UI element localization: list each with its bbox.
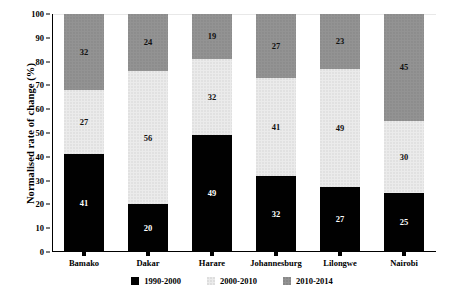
y-tick-label: 0 xyxy=(40,247,44,257)
bar-stack[interactable]: 193249 xyxy=(192,14,232,252)
bar-value-label: 41 xyxy=(272,123,281,132)
x-category-label: Nairobi xyxy=(390,258,418,268)
bar-group[interactable]: 193249 xyxy=(180,14,244,252)
x-tick-cell: Dakar xyxy=(116,252,180,274)
x-category-label: Dakar xyxy=(136,258,159,268)
bar-stack[interactable]: 245620 xyxy=(128,14,168,252)
bar-segment[interactable]: 56 xyxy=(128,71,168,204)
y-tick-mark xyxy=(46,37,50,38)
x-tick-mark xyxy=(274,252,278,256)
y-tick-label: 100 xyxy=(31,9,44,19)
y-tick-label: 40 xyxy=(36,152,45,162)
bars-layer: 322741245620193249274132234927453025 xyxy=(52,14,436,252)
bar-value-label: 27 xyxy=(80,118,89,127)
legend-label: 1990-2000 xyxy=(144,276,181,286)
bar-value-label: 24 xyxy=(144,38,153,47)
x-tick-cell: Nairobi xyxy=(372,252,436,274)
bar-segment[interactable]: 32 xyxy=(192,59,232,135)
legend-swatch-icon xyxy=(283,277,291,285)
legend-item[interactable]: 1990-2000 xyxy=(131,276,181,286)
bar-segment[interactable]: 41 xyxy=(64,154,104,252)
bar-value-label: 45 xyxy=(400,63,409,72)
y-axis-tick-labels: 0102030405060708090100 xyxy=(0,14,50,252)
y-tick-mark xyxy=(46,61,50,62)
bar-segment[interactable]: 32 xyxy=(64,14,104,90)
x-tick-mark xyxy=(402,252,406,256)
bar-value-label: 23 xyxy=(336,37,345,46)
bar-value-label: 19 xyxy=(208,32,217,41)
x-tick-mark xyxy=(82,252,86,256)
bar-segment[interactable]: 49 xyxy=(320,69,360,187)
y-tick-label: 70 xyxy=(36,80,45,90)
bar-segment[interactable]: 41 xyxy=(256,78,296,176)
bar-segment[interactable]: 49 xyxy=(192,135,232,252)
bar-value-label: 32 xyxy=(80,48,89,57)
legend-label: 2000-2010 xyxy=(220,276,257,286)
y-tick-mark xyxy=(46,228,50,229)
bar-segment[interactable]: 24 xyxy=(128,14,168,71)
bar-segment[interactable]: 19 xyxy=(192,14,232,59)
legend-swatch-icon xyxy=(131,277,139,285)
bar-value-label: 32 xyxy=(272,210,281,219)
bar-stack[interactable]: 453025 xyxy=(384,14,424,252)
bar-segment[interactable]: 30 xyxy=(384,121,424,192)
bar-group[interactable]: 322741 xyxy=(52,14,116,252)
bar-group[interactable]: 453025 xyxy=(372,14,436,252)
y-tick-mark xyxy=(46,204,50,205)
bar-value-label: 41 xyxy=(80,199,89,208)
bar-value-label: 25 xyxy=(400,218,409,227)
y-tick-mark xyxy=(46,133,50,134)
bar-value-label: 27 xyxy=(336,215,345,224)
x-axis-category-labels: BamakoDakarHarareJohannesburgLilongweNai… xyxy=(52,252,436,274)
bar-segment[interactable]: 27 xyxy=(64,90,104,154)
bar-group[interactable]: 274132 xyxy=(244,14,308,252)
bar-segment[interactable]: 32 xyxy=(256,176,296,252)
x-category-label: Harare xyxy=(199,258,225,268)
bar-segment[interactable]: 27 xyxy=(256,14,296,78)
x-tick-cell: Lilongwe xyxy=(308,252,372,274)
bar-group[interactable]: 234927 xyxy=(308,14,372,252)
y-tick-mark xyxy=(46,109,50,110)
bar-segment[interactable]: 25 xyxy=(384,193,424,253)
bar-stack[interactable]: 234927 xyxy=(320,14,360,252)
x-category-label: Johannesburg xyxy=(250,258,302,268)
y-tick-label: 80 xyxy=(36,57,45,67)
x-tick-cell: Bamako xyxy=(52,252,116,274)
y-tick-mark xyxy=(46,252,50,253)
bar-group[interactable]: 245620 xyxy=(116,14,180,252)
y-tick-mark xyxy=(46,156,50,157)
legend-item[interactable]: 2000-2010 xyxy=(207,276,257,286)
bar-value-label: 49 xyxy=(336,124,345,133)
bar-value-label: 30 xyxy=(400,153,409,162)
legend-label: 2010-2014 xyxy=(296,276,333,286)
y-tick-mark xyxy=(46,180,50,181)
legend: 1990-20002000-20102010-2014 xyxy=(0,276,464,286)
y-tick-label: 50 xyxy=(36,128,45,138)
bar-value-label: 20 xyxy=(144,224,153,233)
x-tick-cell: Harare xyxy=(180,252,244,274)
bar-stack[interactable]: 274132 xyxy=(256,14,296,252)
bar-value-label: 49 xyxy=(208,189,217,198)
x-tick-cell: Johannesburg xyxy=(244,252,308,274)
bar-value-label: 56 xyxy=(144,134,153,143)
bar-segment[interactable]: 45 xyxy=(384,14,424,121)
bar-value-label: 27 xyxy=(272,42,281,51)
y-tick-mark xyxy=(46,14,50,15)
x-tick-mark xyxy=(146,252,150,256)
bar-value-label: 32 xyxy=(208,93,217,102)
legend-swatch-icon xyxy=(207,277,215,285)
bar-segment[interactable]: 27 xyxy=(320,187,360,252)
bar-segment[interactable]: 20 xyxy=(128,204,168,252)
bar-segment[interactable]: 23 xyxy=(320,14,360,69)
stacked-bar-chart: Normalised rate of change (%) 0102030405… xyxy=(0,0,464,297)
y-tick-mark xyxy=(46,85,50,86)
x-tick-mark xyxy=(338,252,342,256)
x-category-label: Bamako xyxy=(69,258,99,268)
legend-item[interactable]: 2010-2014 xyxy=(283,276,333,286)
bar-stack[interactable]: 322741 xyxy=(64,14,104,252)
y-tick-label: 60 xyxy=(36,104,45,114)
y-tick-label: 30 xyxy=(36,176,45,186)
y-tick-label: 90 xyxy=(36,33,45,43)
y-tick-label: 20 xyxy=(36,199,45,209)
x-tick-mark xyxy=(210,252,214,256)
